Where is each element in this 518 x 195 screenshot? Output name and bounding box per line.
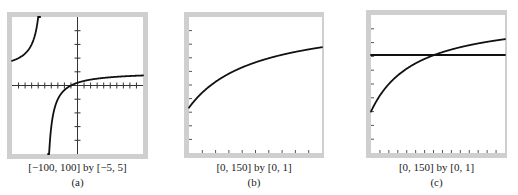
panel-label-c: (c) (366, 176, 507, 188)
series-curve (189, 47, 322, 107)
series-rational (12, 17, 40, 61)
panel-b (184, 12, 324, 158)
series-curve (371, 39, 505, 111)
window-label-c: [0, 150] by [0, 1] (366, 161, 507, 174)
chart-b-svg (184, 12, 324, 158)
panel-a (7, 12, 148, 159)
panel-label-a: (a) (7, 176, 148, 188)
series-rational (48, 75, 143, 154)
window-label-a: [−100, 100] by [−5, 5] (7, 161, 148, 174)
panel-c (366, 10, 507, 158)
chart-c-svg (366, 10, 507, 158)
panel-label-b: (b) (184, 176, 324, 188)
chart-a-svg (7, 12, 148, 159)
window-label-b: [0, 150] by [0, 1] (184, 161, 324, 174)
